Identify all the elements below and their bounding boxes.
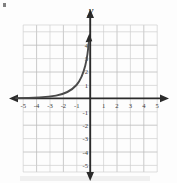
figure-container: -5 -4 -3 -2 -1 1 2 3 4 5 4 3 2 1 -1 -2 -…: [0, 0, 177, 183]
ytick--3: -3: [83, 135, 89, 142]
xtick--2: -2: [61, 102, 67, 109]
xtick--1: -1: [74, 102, 80, 109]
ytick--5: -5: [83, 162, 89, 169]
xtick-5: 5: [156, 102, 160, 109]
x-axis-arrow-right: [160, 95, 169, 103]
y-axis-label: y: [88, 4, 94, 16]
xtick--4: -4: [34, 102, 40, 109]
coordinate-plane-graph: -5 -4 -3 -2 -1 1 2 3 4 5 4 3 2 1 -1 -2 -…: [0, 0, 177, 183]
ytick--4: -4: [83, 149, 89, 156]
xtick--5: -5: [20, 102, 26, 109]
xtick-1: 1: [102, 102, 105, 109]
xtick--3: -3: [47, 102, 53, 109]
xtick-2: 2: [115, 102, 118, 109]
xtick-3: 3: [129, 102, 133, 109]
exponential-curve: [16, 40, 89, 98]
scan-artifact-speck: [3, 3, 6, 7]
ytick--2: -2: [83, 122, 89, 129]
ytick-1: 1: [85, 82, 88, 89]
scan-smudge-bottom: [20, 176, 150, 181]
curve-arrowhead: [86, 34, 93, 43]
xtick-4: 4: [142, 102, 146, 109]
ytick--1: -1: [83, 109, 89, 116]
